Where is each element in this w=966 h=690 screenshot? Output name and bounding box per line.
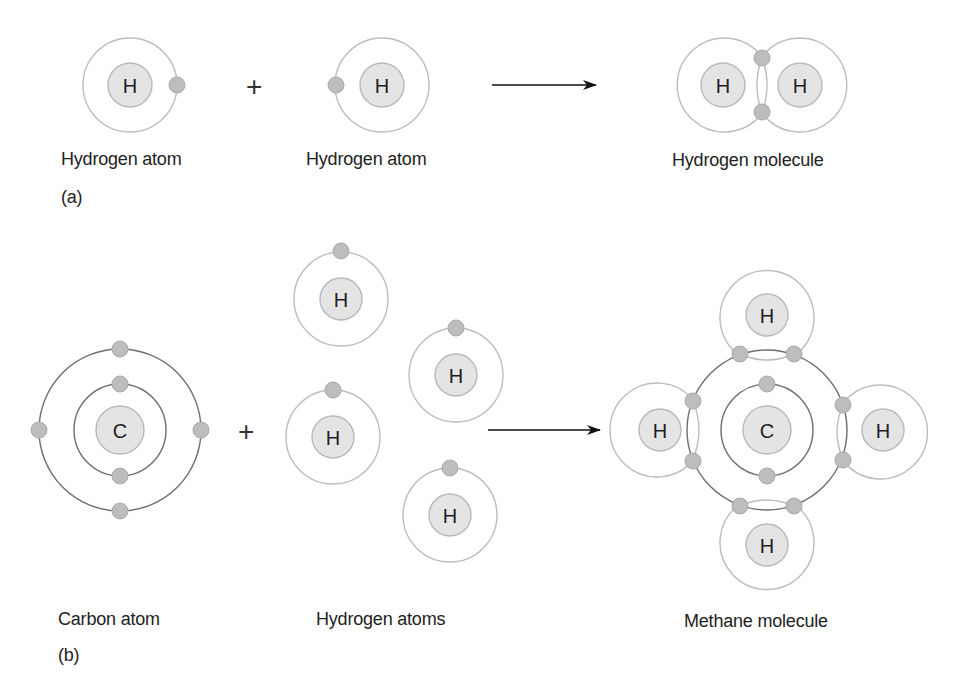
element-symbol: H	[876, 420, 890, 442]
electron	[333, 243, 349, 259]
electron	[112, 503, 128, 519]
hydrogen-atom-b4: H	[403, 460, 497, 562]
electron	[328, 77, 344, 93]
element-symbol: H	[653, 420, 667, 442]
electron	[759, 468, 775, 484]
element-symbol: H	[760, 535, 774, 557]
electron	[325, 382, 341, 398]
electron	[193, 422, 209, 438]
plus-sign-a: +	[246, 73, 262, 101]
electron	[112, 468, 128, 484]
electron	[112, 376, 128, 392]
label-methane-molecule: Methane molecule	[684, 611, 828, 632]
shared-electron	[732, 346, 748, 362]
part-a-tag: (a)	[61, 187, 82, 208]
element-symbol: H	[449, 365, 463, 387]
shared-electron	[754, 50, 770, 66]
element-symbol: H	[326, 427, 340, 449]
shared-electron	[685, 453, 701, 469]
hydrogen-atom-1: H	[83, 38, 185, 132]
shared-orbital-left	[693, 401, 699, 459]
hydrogen-atom-2: H	[328, 38, 429, 132]
electron	[169, 77, 185, 93]
label-hydrogen-atom-1: Hydrogen atom	[61, 149, 181, 170]
shared-electron	[732, 498, 748, 514]
carbon-atom: C	[31, 341, 209, 519]
electron	[31, 422, 47, 438]
methane-molecule: C H H H H	[610, 271, 927, 590]
hydrogen-atom-b3: H	[286, 382, 380, 484]
bonding-diagram: H H H H C H	[0, 0, 966, 690]
part-b-tag: (b)	[58, 645, 79, 666]
element-symbol: H	[793, 75, 807, 97]
label-hydrogen-atoms: Hydrogen atoms	[316, 609, 445, 630]
shared-electron	[786, 346, 802, 362]
electron	[112, 341, 128, 357]
element-symbol: H	[716, 75, 730, 97]
element-symbol: H	[123, 75, 137, 97]
element-symbol: C	[113, 420, 127, 442]
label-carbon-atom: Carbon atom	[58, 609, 160, 630]
shared-electron	[835, 397, 851, 413]
label-hydrogen-atom-2: Hydrogen atom	[306, 149, 426, 170]
label-hydrogen-molecule: Hydrogen molecule	[672, 150, 824, 171]
shared-electron	[754, 104, 770, 120]
shared-electron	[835, 452, 851, 468]
plus-sign-b: +	[238, 418, 254, 446]
electron	[448, 320, 464, 336]
hydrogen-atom-b1: H	[294, 243, 388, 346]
electron	[442, 460, 458, 476]
element-symbol: H	[334, 289, 348, 311]
element-symbol: H	[375, 75, 389, 97]
element-symbol: H	[443, 505, 457, 527]
shared-electron	[786, 498, 802, 514]
element-symbol: H	[760, 305, 774, 327]
element-symbol: C	[760, 420, 774, 442]
hydrogen-molecule: H H	[677, 38, 846, 132]
electron	[759, 376, 775, 392]
hydrogen-atom-b2: H	[409, 320, 503, 422]
shared-electron	[685, 393, 701, 409]
